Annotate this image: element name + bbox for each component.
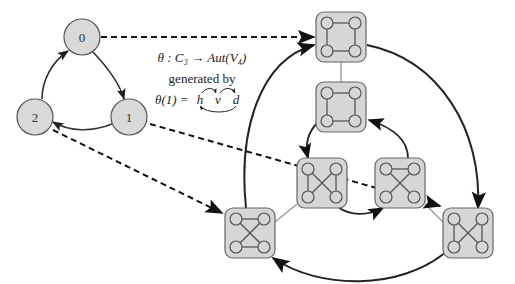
formula-line-3-prefix: θ(1) = (155, 92, 189, 107)
node-0-label: 0 (79, 30, 86, 45)
box-F (443, 208, 493, 258)
node-1-label: 1 (126, 110, 133, 125)
box-C (297, 158, 347, 208)
generator-h: h (197, 92, 204, 107)
box-D (375, 158, 425, 208)
formula-line-1: θ : C₃ → Aut(V₄) (158, 50, 247, 65)
formula-line-2: generated by (169, 71, 236, 86)
generator-d: d (233, 92, 240, 107)
node-0: 0 (64, 19, 100, 55)
node-1: 1 (111, 99, 147, 135)
box-A (316, 12, 366, 62)
node-2: 2 (17, 99, 53, 135)
map-2-to-E (53, 130, 222, 213)
diagram-canvas: 0 1 2 θ : C₃ → Aut(V₄) generated by θ(1)… (0, 0, 515, 284)
box-B (316, 82, 366, 132)
generator-v: v (215, 92, 221, 107)
node-2-label: 2 (32, 110, 39, 125)
formula: θ : C₃ → Aut(V₄) generated by θ(1) = h v… (155, 50, 246, 112)
box-E (225, 208, 275, 258)
